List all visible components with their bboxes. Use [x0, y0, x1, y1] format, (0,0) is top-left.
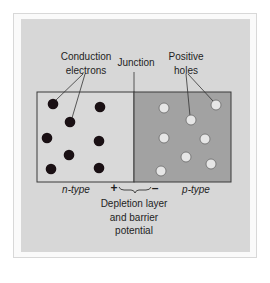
electron-icon	[64, 150, 75, 161]
depletion-brace-icon	[119, 187, 151, 193]
hole-icon	[211, 100, 221, 110]
hole-icon	[200, 134, 210, 144]
hole-icon	[159, 103, 169, 113]
electron-icon	[65, 117, 76, 128]
plus-sign: +	[109, 182, 119, 194]
depletion-layer-label: Depletion layer and barrier potential	[94, 197, 174, 238]
hole-icon	[206, 159, 216, 169]
hole-icon	[159, 133, 169, 143]
minus-sign: –	[150, 182, 160, 194]
label-line: electrons	[58, 65, 114, 77]
label-line: and barrier	[94, 211, 174, 225]
label-line: Conduction	[58, 51, 114, 63]
pn-junction-diagram	[0, 0, 270, 283]
electron-icon	[94, 136, 105, 147]
hole-icon	[181, 152, 191, 162]
electron-icon	[48, 99, 59, 110]
hole-icon	[186, 115, 196, 125]
hole-icon	[156, 166, 166, 176]
electron-icon	[94, 163, 105, 174]
label-line: Depletion layer	[94, 197, 174, 211]
p-type-label: p-type	[176, 184, 216, 196]
label-line: holes	[164, 65, 208, 77]
junction-label: Junction	[114, 57, 158, 69]
electron-icon	[95, 102, 106, 113]
n-type-label: n-type	[56, 184, 96, 196]
conduction-electrons-label: Conduction electrons	[58, 51, 114, 77]
electron-icon	[46, 164, 57, 175]
electron-icon	[42, 133, 53, 144]
positive-holes-label: Positive holes	[164, 51, 208, 77]
label-line: Positive	[164, 51, 208, 63]
label-line: potential	[94, 224, 174, 238]
